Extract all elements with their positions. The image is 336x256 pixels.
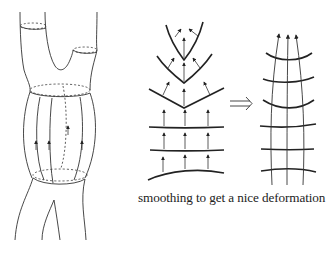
smoothed-curves-figure — [260, 34, 316, 185]
level-curves-figure — [148, 22, 224, 180]
left-cobordism-figure — [15, 12, 97, 240]
figure-caption: smoothing to get a nice deformation — [138, 190, 336, 206]
diagram-canvas — [0, 0, 336, 256]
implies-arrow-icon — [230, 97, 252, 110]
